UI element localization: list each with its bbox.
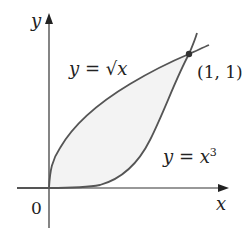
origin-label: 0 xyxy=(31,200,42,217)
intersection-point xyxy=(186,51,192,57)
point-label: (1, 1) xyxy=(197,64,243,81)
curve-cube-base: y = x xyxy=(163,146,210,167)
y-axis-label: y xyxy=(31,12,41,30)
x-axis-label: x xyxy=(216,195,226,213)
area-between-curves-figure: y x 0 y = √x (1, 1) y = x3 xyxy=(0,0,246,237)
curve-sqrt-label: y = √x xyxy=(69,60,127,78)
curve-cube-label: y = x3 xyxy=(163,147,217,166)
curve-cube-exponent: 3 xyxy=(210,146,217,159)
x-axis-arrow-icon xyxy=(218,184,229,192)
y-axis-arrow-icon xyxy=(45,13,53,24)
